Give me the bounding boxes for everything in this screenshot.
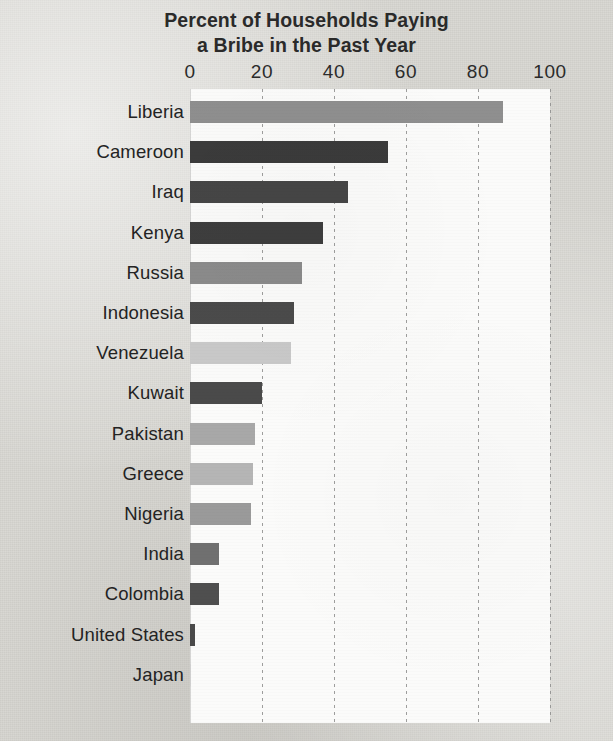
category-label-india: India (0, 543, 184, 565)
bar-pakistan (190, 423, 255, 445)
bar-fill (190, 463, 253, 485)
x-tick-label-40: 40 (323, 61, 345, 83)
category-label-iraq: Iraq (0, 181, 184, 203)
category-label-united-states: United States (0, 624, 184, 646)
category-label-venezuela: Venezuela (0, 342, 184, 364)
chart-title: Percent of Households Paying a Bribe in … (0, 8, 613, 58)
bar-japan (190, 664, 191, 686)
x-tick-label-100: 100 (533, 61, 567, 83)
bar-venezuela (190, 342, 291, 364)
bar-fill (190, 624, 195, 646)
bar-colombia (190, 583, 219, 605)
gridline-100 (550, 89, 551, 723)
category-label-colombia: Colombia (0, 583, 184, 605)
x-tick-label-20: 20 (251, 61, 273, 83)
bar-cameroon (190, 141, 388, 163)
bar-fill (190, 262, 302, 284)
category-label-pakistan: Pakistan (0, 423, 184, 445)
x-axis-tick-labels: 020406080100 (0, 61, 613, 87)
bar-fill (190, 342, 291, 364)
category-label-indonesia: Indonesia (0, 302, 184, 324)
bar-indonesia (190, 302, 294, 324)
category-label-kuwait: Kuwait (0, 382, 184, 404)
category-label-cameroon: Cameroon (0, 141, 184, 163)
category-axis-labels: LiberiaCameroonIraqKenyaRussiaIndonesiaV… (0, 89, 184, 723)
bars (190, 89, 550, 723)
bar-fill (190, 423, 255, 445)
chart-title-line-1: Percent of Households Paying (0, 8, 613, 33)
bar-fill (190, 583, 219, 605)
chart-title-line-2: a Bribe in the Past Year (0, 33, 613, 58)
bar-fill (190, 543, 219, 565)
x-tick-label-60: 60 (395, 61, 417, 83)
category-label-russia: Russia (0, 262, 184, 284)
category-label-liberia: Liberia (0, 101, 184, 123)
category-label-nigeria: Nigeria (0, 503, 184, 525)
category-label-greece: Greece (0, 463, 184, 485)
bar-nigeria (190, 503, 251, 525)
bar-fill (190, 664, 191, 686)
bar-fill (190, 181, 348, 203)
bar-iraq (190, 181, 348, 203)
bar-kuwait (190, 382, 262, 404)
category-label-japan: Japan (0, 664, 184, 686)
x-tick-label-0: 0 (184, 61, 195, 83)
bar-russia (190, 262, 302, 284)
x-tick-label-80: 80 (467, 61, 489, 83)
bar-fill (190, 302, 294, 324)
plot-area (190, 89, 550, 723)
category-label-kenya: Kenya (0, 222, 184, 244)
bar-kenya (190, 222, 323, 244)
bar-fill (190, 382, 262, 404)
bar-liberia (190, 101, 503, 123)
bar-india (190, 543, 219, 565)
bar-fill (190, 503, 251, 525)
bar-fill (190, 141, 388, 163)
bar-fill (190, 222, 323, 244)
bar-greece (190, 463, 253, 485)
bar-united-states (190, 624, 195, 646)
bar-fill (190, 101, 503, 123)
